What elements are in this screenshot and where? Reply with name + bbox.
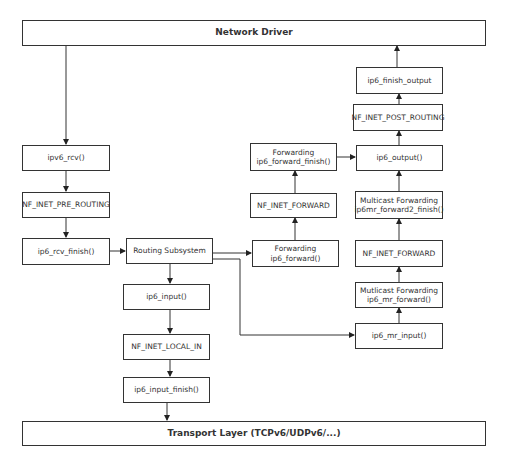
ip6-forward-node: Forwarding ip6_forward() <box>252 240 339 267</box>
ip6-finish-output-label: ip6_finish_output <box>367 76 431 85</box>
network-driver-label: Network Driver <box>215 27 292 38</box>
network-driver-layer: Network Driver <box>22 20 486 46</box>
nf-forward-hook-node: NF_INET_FORWARD <box>250 193 337 218</box>
routing-subsystem-label: Routing Subsystem <box>133 246 206 255</box>
ip6-output-label: ip6_output() <box>377 153 423 162</box>
post-routing-hook-node: NF_INET_POST_ROUTING <box>353 104 443 131</box>
ip6mr-forward2-finish-node: Multicast Forwarding ip6mr_forward2_fini… <box>355 191 443 219</box>
ip6-input-node: ip6_input() <box>123 284 210 310</box>
ipv6-rcv-node: ipv6_rcv() <box>22 145 110 171</box>
transport-layer-label: Transport Layer (TCPv6/UDPv6/...) <box>167 428 340 439</box>
post-routing-label: NF_INET_POST_ROUTING <box>352 113 445 122</box>
ip6-forward-finish-node: Forwarding ip6_forward_finish() <box>250 143 337 171</box>
ip6-forward-fn: ip6_forward() <box>271 254 321 263</box>
ip6mr-forward2-finish-fn: ip6mr_forward2_finish() <box>354 205 443 214</box>
ip6-rcv-finish-node: ip6_rcv_finish() <box>22 238 110 265</box>
transport-layer: Transport Layer (TCPv6/UDPv6/...) <box>22 421 486 446</box>
ip6-mr-forward-node: Mutlicast Forwarding ip6_mr_forward() <box>355 282 443 308</box>
ip6-forward-finish-title: Forwarding <box>273 148 315 157</box>
multicast-nf-forward-label: NF_INET_FORWARD <box>363 249 436 258</box>
ip6-input-label: ip6_input() <box>146 292 187 301</box>
multicast-nf-forward-hook-node: NF_INET_FORWARD <box>355 240 443 267</box>
nf-forward-label: NF_INET_FORWARD <box>257 201 330 210</box>
pre-routing-hook-node: NF_INET_PRE_ROUTING <box>22 192 110 218</box>
local-in-label: NF_INET_LOCAL_IN <box>131 342 202 351</box>
ip6-input-finish-node: ip6_input_finish() <box>123 377 210 403</box>
pre-routing-label: NF_INET_PRE_ROUTING <box>22 200 110 209</box>
ip6-finish-output-node: ip6_finish_output <box>356 67 443 94</box>
ip6-rcv-finish-label: ip6_rcv_finish() <box>38 247 95 256</box>
ip6-mr-input-node: ip6_mr_input() <box>355 323 443 349</box>
ip6-output-node: ip6_output() <box>356 145 443 171</box>
routing-subsystem-node: Routing Subsystem <box>126 238 213 264</box>
ip6-input-finish-label: ip6_input_finish() <box>134 385 198 394</box>
ip6-mr-forward-title: Mutlicast Forwarding <box>360 286 438 295</box>
ip6-mr-forward-fn: ip6_mr_forward() <box>367 295 431 304</box>
ip6-mr-input-label: ip6_mr_input() <box>372 331 427 340</box>
ip6-forward-title: Forwarding <box>275 244 317 253</box>
ipv6-rcv-label: ipv6_rcv() <box>47 153 84 162</box>
local-in-hook-node: NF_INET_LOCAL_IN <box>123 334 210 360</box>
ip6-forward-finish-fn: ip6_forward_finish() <box>257 157 331 166</box>
ip6mr-forward2-finish-title: Multicast Forwarding <box>360 196 438 205</box>
